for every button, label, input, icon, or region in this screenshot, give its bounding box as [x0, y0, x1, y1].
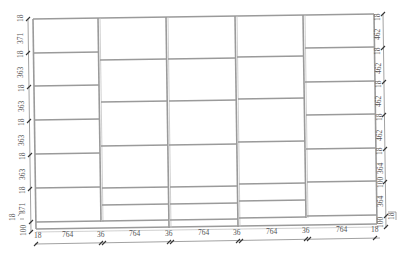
- left-dim-10: 18: [18, 186, 27, 194]
- left-dim-13: 100: [19, 225, 28, 237]
- bottom-dim-6: 36: [233, 228, 241, 237]
- bottom-dim-3: 764: [129, 229, 141, 238]
- right-dim-0: 18: [373, 13, 382, 21]
- right-dim-10: 100: [376, 177, 385, 189]
- shelves-column-5: [305, 47, 377, 216]
- right-dim-1: 462: [373, 29, 382, 41]
- right-dim-3: 462: [374, 63, 383, 75]
- left-offset-dim: 18: [8, 213, 17, 221]
- vertical-dividers: [98, 15, 308, 228]
- left-dim-4: 18: [17, 84, 26, 92]
- right-offset-dim: 18: [387, 212, 396, 220]
- bottom-dim-7: 764: [266, 227, 278, 236]
- bottom-dim-9: 764: [336, 225, 348, 234]
- left-dim-3: 363: [16, 67, 25, 79]
- bottom-dim-5: 764: [198, 228, 210, 237]
- left-dim-6: 18: [17, 118, 26, 126]
- cabinet-frame: [33, 14, 377, 232]
- left-dim-11: 371: [18, 203, 27, 215]
- bottom-dim-1: 764: [62, 230, 74, 239]
- left-dim-7: 363: [17, 135, 26, 147]
- left-dim-2: 18: [16, 50, 25, 58]
- shelves-column-2: [100, 59, 169, 221]
- left-dimension-chain: 18 371 18 363 18 363 18 363 18 363 18 37…: [8, 14, 33, 236]
- right-dim-6: 18: [375, 113, 384, 121]
- shelves-column-3: [168, 58, 238, 220]
- right-dim-8: 18: [375, 147, 384, 155]
- left-dim-9: 363: [18, 169, 27, 181]
- shelves-column-1: [34, 52, 101, 222]
- left-dim-0: 18: [16, 14, 25, 22]
- left-dim-8: 18: [18, 152, 27, 160]
- bottom-dim-2: 36: [97, 230, 105, 239]
- right-dimension-chain: 18 462 18 462 18 462 18 462 18 364 100 3…: [373, 12, 396, 229]
- left-dim-1: 371: [16, 33, 25, 45]
- right-dim-4: 18: [374, 80, 383, 88]
- bottom-dim-4: 36: [165, 229, 173, 238]
- right-dim-11: 364: [376, 196, 385, 208]
- right-dim-2: 18: [373, 47, 382, 55]
- right-dim-5: 462: [374, 96, 383, 108]
- bottom-dim-0: 18: [34, 231, 42, 240]
- left-dim-5: 363: [17, 101, 26, 113]
- shelves-column-4: [237, 56, 306, 218]
- bottom-dim-10: 18: [371, 225, 379, 234]
- right-dim-7: 462: [375, 130, 384, 142]
- right-dim-9: 364: [376, 163, 385, 175]
- bottom-dim-8: 36: [302, 226, 310, 235]
- cabinet-elevation-drawing: 18 371 18 363 18 363 18 363 18 363 18 37…: [0, 0, 413, 256]
